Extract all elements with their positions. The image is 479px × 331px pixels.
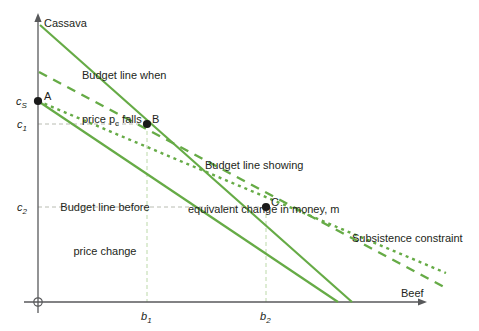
y-tick-label-cS: cS <box>16 94 27 109</box>
annotation-before-price-change-line1: Budget line before <box>46 200 164 215</box>
annotation-equivalent-money-line2: equivalent change in money, m <box>188 202 339 217</box>
y-tick-c2-sub: 2 <box>23 207 27 216</box>
y-axis-arrow <box>34 13 41 22</box>
y-tick-c1-main: c <box>17 118 23 130</box>
annotation-price-falls-sub: c <box>115 119 119 128</box>
annotation-subsistence-constraint: Subsistence constraint <box>352 231 463 246</box>
y-tick-label-c1: c1 <box>17 117 27 132</box>
annotation-budget-line-before-price-change: Budget line before price change <box>46 170 164 289</box>
y-tick-cS-sub: S <box>22 101 27 110</box>
y-axis-label: Cassava <box>44 16 87 31</box>
y-tick-cS-main: c <box>16 95 22 107</box>
economics-budget-line-figure: Cassava Beef 0 cS c1 c2 b1 b2 A B C Budg… <box>0 0 479 331</box>
annotation-price-falls-line2-post: falls <box>119 113 142 125</box>
x-tick-b1-sub: 1 <box>147 316 151 325</box>
x-tick-b2-sub: 2 <box>266 316 270 325</box>
y-tick-label-c2: c2 <box>17 200 27 215</box>
annotation-budget-line-equivalent-money: Budget line showing equivalent change in… <box>205 128 339 247</box>
annotation-price-falls-line2: price pc falls <box>82 112 166 127</box>
annotation-budget-line-price-falls: Budget line when price pc falls <box>82 38 166 157</box>
annotation-equivalent-money-var: m <box>330 203 339 215</box>
point-label-A: A <box>44 89 51 104</box>
x-tick-label-b2: b2 <box>260 309 271 324</box>
point-marker-A <box>34 97 42 105</box>
annotation-before-price-change-line2: price change <box>46 244 164 259</box>
annotation-price-falls-line1: Budget line when <box>82 68 166 83</box>
annotation-price-falls-line2-pre: price <box>82 113 109 125</box>
annotation-equivalent-money-line1: Budget line showing <box>205 158 339 173</box>
y-tick-c2-main: c <box>17 201 23 213</box>
y-tick-c1-sub: 1 <box>23 124 27 133</box>
x-tick-label-b1: b1 <box>141 309 152 324</box>
annotation-equivalent-money-line2-pre: equivalent change in money, <box>188 203 330 215</box>
x-axis-label: Beef <box>401 286 424 301</box>
